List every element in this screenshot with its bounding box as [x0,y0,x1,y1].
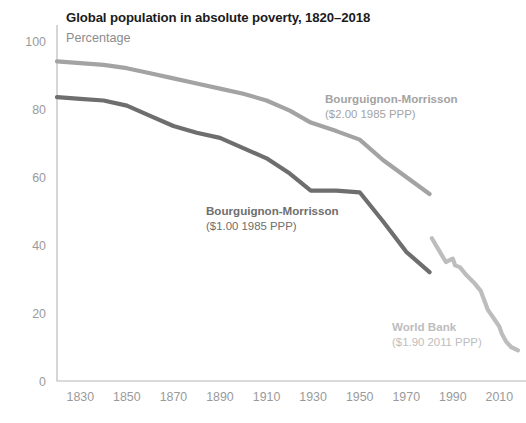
x-tick-1950: 1950 [346,390,374,404]
y-tick-40: 40 [32,239,46,253]
y-tick-0: 0 [39,375,46,389]
y-tick-20: 20 [32,307,46,321]
series-annotations: Bourguignon-Morrisson($2.00 1985 PPP)Bou… [206,92,482,348]
y-tick-60: 60 [32,171,46,185]
series-line-2 [432,238,518,350]
bourguignon-2dollar-label-title: Bourguignon-Morrisson [325,92,458,105]
world-bank-label-title: World Bank [392,320,457,333]
x-tick-1870: 1870 [160,390,188,404]
x-tick-1850: 1850 [113,390,141,404]
series-line-0 [57,61,430,194]
x-tick-1890: 1890 [206,390,234,404]
x-tick-1830: 1830 [66,390,94,404]
x-tick-2010: 2010 [486,390,514,404]
line-chart-plot: 020406080100 183018501870189019101930195… [0,0,526,423]
bourguignon-1dollar-label-title: Bourguignon-Morrisson [206,204,339,217]
y-axis-tick-labels: 020406080100 [25,35,46,389]
chart-container: Global population in absolute poverty, 1… [0,0,526,423]
x-tick-1970: 1970 [392,390,420,404]
y-tick-100: 100 [25,35,46,49]
series-line-1 [57,97,430,272]
y-tick-80: 80 [32,103,46,117]
x-tick-1930: 1930 [299,390,327,404]
x-tick-1990: 1990 [439,390,467,404]
x-axis-tick-labels: 1830185018701890191019301950197019902010 [66,390,513,404]
bourguignon-2dollar-label-sub: ($2.00 1985 PPP) [325,108,416,120]
bourguignon-1dollar-label-sub: ($1.00 1985 PPP) [206,220,297,232]
x-tick-1910: 1910 [253,390,281,404]
world-bank-label-sub: ($1.90 2011 PPP) [392,336,482,348]
